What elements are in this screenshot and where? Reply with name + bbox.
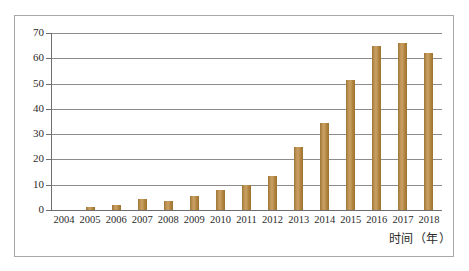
- y-tick-mark-60: [46, 58, 51, 59]
- bar-2005: [86, 207, 95, 210]
- y-tick-mark-0: [46, 210, 51, 211]
- bar-2013: [294, 147, 303, 210]
- x-tick-label-2006: 2006: [102, 213, 130, 226]
- bar-2014: [320, 123, 329, 210]
- x-tick-label-2012: 2012: [259, 213, 287, 226]
- x-tick-label-2004: 2004: [50, 213, 78, 226]
- y-tick-label-60: 60: [2, 52, 44, 63]
- y-tick-mark-30: [46, 134, 51, 135]
- bar-2018: [424, 53, 433, 210]
- x-tick-label-2007: 2007: [128, 213, 156, 226]
- x-tick-label-2016: 2016: [363, 213, 391, 226]
- x-tick-label-2014: 2014: [311, 213, 339, 226]
- bar-2006: [112, 205, 121, 210]
- bar-2012: [268, 176, 277, 210]
- bar-2010: [216, 190, 225, 210]
- y-tick-label-30: 30: [2, 128, 44, 139]
- y-tick-label-50: 50: [2, 78, 44, 89]
- x-tick-label-2018: 2018: [415, 213, 443, 226]
- y-tick-label-40: 40: [2, 103, 44, 114]
- bar-2011: [242, 185, 251, 210]
- y-axis-tick-labels: 010203040506070: [0, 0, 44, 271]
- y-tick-mark-10: [46, 185, 51, 186]
- bar-2008: [164, 201, 173, 210]
- x-axis-tick-labels: 2004200520062007200820092010201120122013…: [51, 213, 442, 229]
- y-tick-label-10: 10: [2, 179, 44, 190]
- y-tick-label-20: 20: [2, 153, 44, 164]
- x-axis-title: 时间（年）: [389, 232, 452, 246]
- y-tick-mark-40: [46, 109, 51, 110]
- x-tick-label-2015: 2015: [337, 213, 365, 226]
- y-tick-mark-50: [46, 84, 51, 85]
- y-tick-mark-70: [46, 33, 51, 34]
- gridline-0: [51, 210, 442, 211]
- bar-2007: [138, 199, 147, 210]
- chart-figure: 010203040506070 200420052006200720082009…: [0, 0, 469, 271]
- bar-series: [51, 33, 442, 210]
- x-tick-label-2010: 2010: [206, 213, 234, 226]
- y-tick-label-70: 70: [2, 27, 44, 38]
- x-tick-label-2009: 2009: [180, 213, 208, 226]
- bar-2017: [398, 43, 407, 210]
- y-tick-mark-20: [46, 159, 51, 160]
- x-tick-label-2011: 2011: [233, 213, 261, 226]
- bar-2009: [190, 196, 199, 210]
- x-tick-label-2017: 2017: [389, 213, 417, 226]
- y-tick-label-0: 0: [2, 204, 44, 215]
- bar-2016: [372, 46, 381, 210]
- bar-2015: [346, 80, 355, 210]
- x-tick-label-2008: 2008: [154, 213, 182, 226]
- x-tick-label-2005: 2005: [76, 213, 104, 226]
- x-tick-label-2013: 2013: [285, 213, 313, 226]
